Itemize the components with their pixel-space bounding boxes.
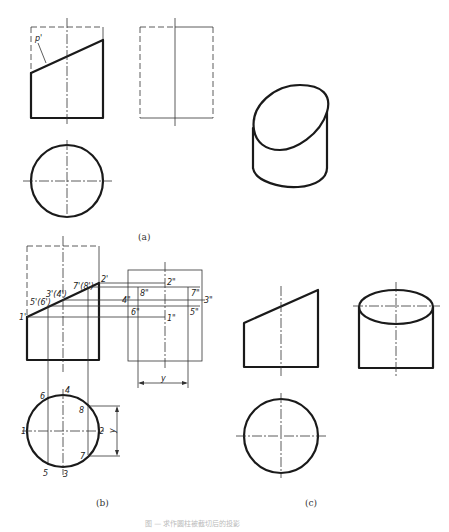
b-top-2: 2 [99,427,104,436]
panel-a-top-view [23,140,112,220]
b-side-dim-y: y [160,374,166,383]
b-front-1: 1' [19,313,26,322]
b-front-56: 5'(6') [30,298,51,307]
b-top-8: 8 [79,406,84,415]
panel-c-front-view [244,286,318,377]
leader-line [38,43,46,63]
b-top-4: 4 [65,386,70,395]
b-top-5: 5 [43,469,48,478]
panel-b-caption: (b) [96,498,109,508]
panel-a-front-view: p' [31,18,103,124]
panel-b: 1' 5'(6') 3'(4') 7'(8') 2' y 2" 4" 8" 7"… [19,236,213,508]
panel-a-side-view [140,18,213,126]
panel-c-caption: (c) [305,498,317,508]
b-front-34: 3'(4') [46,290,67,299]
b-top-3: 3 [63,470,68,479]
b-top-dim-y: y [108,428,117,434]
panel-c-side-view [353,282,440,378]
panel-a-isometric-view [253,85,328,187]
b-side-2: 2" [167,278,176,287]
b-side-6: 6" [131,308,140,317]
figure-caption: 图 — 求作圆柱被截切后的投影 [145,519,240,528]
b-side-3: 3" [204,296,213,305]
panel-b-side-view: y 2" 4" 8" 7" 3" 6" 1" 5" [122,262,213,388]
b-side-7: 7" [191,289,200,298]
b-side-4: 4" [122,296,131,305]
label-p-prime: p' [34,34,42,43]
b-side-8: 8" [140,289,149,298]
b-top-6: 6 [40,392,45,401]
panel-c-top-view [236,393,326,478]
b-top-1: 1 [21,427,26,436]
panel-c: (c) [236,282,440,508]
b-side-1: 1" [167,314,176,323]
panel-a-caption: (a) [138,232,150,242]
b-front-78: 7'(8') [73,282,94,291]
panel-a: p' (a) [23,18,328,242]
b-side-5: 5" [190,308,199,317]
b-front-2: 2' [101,275,108,284]
technical-drawing: p' (a) [0,0,449,532]
panel-b-top-view: y 1 2 3 4 5 6 7 8 [21,386,120,479]
